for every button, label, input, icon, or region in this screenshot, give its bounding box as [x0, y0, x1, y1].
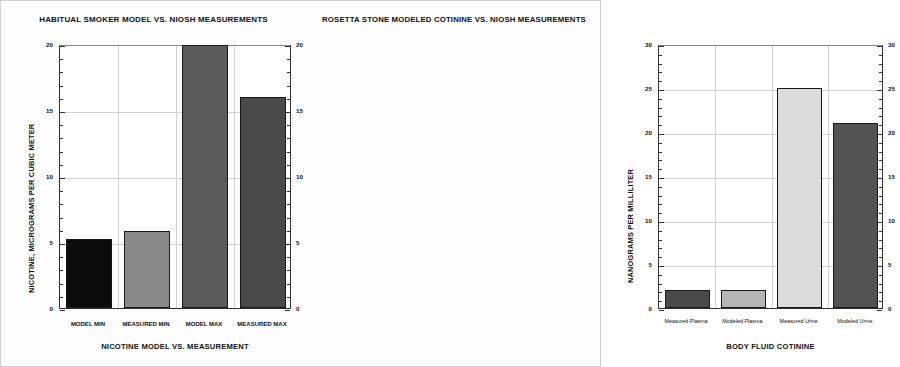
tick-minor-left	[60, 165, 63, 166]
y-tick-label-left: 25	[632, 86, 652, 92]
tick-major-left	[60, 244, 65, 245]
tick-minor-left	[659, 99, 662, 100]
y-tick-label-left: 10	[33, 174, 53, 180]
tick-minor-right	[879, 143, 882, 144]
tick-minor-left	[659, 292, 662, 293]
tick-minor-left	[659, 187, 662, 188]
y-tick-label-right: 20	[888, 130, 900, 136]
tick-minor-right	[879, 169, 882, 170]
y-tick-label-right: 30	[888, 42, 900, 48]
tick-minor-right	[879, 72, 882, 73]
tick-minor-right	[879, 160, 882, 161]
tick-major-right	[877, 90, 882, 91]
tick-minor-left	[659, 152, 662, 153]
tick-minor-left	[659, 257, 662, 258]
y-tick-label-left: 20	[632, 130, 652, 136]
chart-rosetta-stone-cotinine: ROSETTA STONE MODELED COTININE VS. NIOSH…	[306, 1, 602, 367]
tick-minor-left	[659, 55, 662, 56]
tick-minor-left	[659, 160, 662, 161]
plot-area-left	[59, 45, 291, 309]
tick-minor-left	[60, 297, 63, 298]
y-tick-label-right: 15	[888, 174, 900, 180]
tick-minor-right	[879, 204, 882, 205]
tick-minor-right	[879, 292, 882, 293]
tick-minor-left	[60, 59, 63, 60]
tick-minor-right	[287, 152, 290, 153]
bar	[721, 290, 766, 308]
tick-minor-right	[287, 138, 290, 139]
tick-minor-left	[659, 231, 662, 232]
tick-major-left	[60, 178, 65, 179]
tick-minor-left	[659, 108, 662, 109]
tick-minor-left	[60, 152, 63, 153]
tick-minor-right	[879, 99, 882, 100]
tick-minor-right	[879, 152, 882, 153]
tick-minor-right	[287, 165, 290, 166]
tick-major-right	[877, 310, 882, 311]
tick-minor-right	[879, 81, 882, 82]
x-axis-title-right: BODY FLUID COTININE	[658, 342, 883, 351]
tick-minor-right	[287, 86, 290, 87]
tick-minor-right	[879, 55, 882, 56]
y-tick-label-left: 30	[632, 42, 652, 48]
x-category-label: Measured Urine	[771, 319, 827, 324]
gridline-vertical	[176, 46, 177, 308]
gridline-vertical	[715, 46, 716, 308]
tick-minor-left	[60, 86, 63, 87]
tick-major-left	[60, 46, 65, 47]
tick-minor-right	[879, 284, 882, 285]
tick-major-left	[659, 222, 664, 223]
y-tick-label-left: 10	[632, 218, 652, 224]
tick-minor-left	[659, 169, 662, 170]
bar	[665, 290, 710, 308]
y-tick-label-left: 0	[33, 306, 53, 312]
tick-minor-right	[879, 257, 882, 258]
bar	[66, 239, 112, 308]
y-tick-label-left: 15	[632, 174, 652, 180]
x-category-label: Modeled Plasma	[714, 319, 770, 324]
bar	[240, 97, 286, 308]
bar	[124, 231, 170, 308]
tick-minor-left	[60, 231, 63, 232]
gridline-vertical	[828, 46, 829, 308]
tick-minor-right	[287, 257, 290, 258]
tick-minor-right	[879, 64, 882, 65]
tick-minor-left	[659, 213, 662, 214]
tick-minor-left	[659, 204, 662, 205]
tick-minor-left	[659, 72, 662, 73]
y-tick-label-right: 25	[888, 86, 900, 92]
tick-minor-right	[287, 297, 290, 298]
x-category-label: Modeled Urine	[827, 319, 883, 324]
tick-minor-left	[659, 196, 662, 197]
tick-minor-left	[659, 64, 662, 65]
chart-habitual-smoker-nicotine: HABITUAL SMOKER MODEL VS. NIOSH MEASUREM…	[1, 1, 306, 367]
y-tick-label-right: 0	[888, 306, 900, 312]
tick-minor-left	[659, 248, 662, 249]
tick-minor-left	[60, 204, 63, 205]
tick-minor-right	[879, 196, 882, 197]
tick-minor-right	[287, 284, 290, 285]
tick-major-right	[877, 46, 882, 47]
gridline-vertical	[234, 46, 235, 308]
tick-minor-left	[60, 270, 63, 271]
chart-title-right: ROSETTA STONE MODELED COTININE VS. NIOSH…	[306, 15, 602, 24]
tick-minor-left	[659, 143, 662, 144]
x-category-label: MEASURED MAX	[233, 321, 291, 327]
tick-minor-left	[60, 257, 63, 258]
gridline-vertical	[118, 46, 119, 308]
gridline-vertical	[772, 46, 773, 308]
gridline-horizontal	[659, 90, 882, 91]
tick-minor-left	[659, 81, 662, 82]
chart-title-left: HABITUAL SMOKER MODEL VS. NIOSH MEASUREM…	[1, 15, 306, 24]
tick-minor-right	[879, 240, 882, 241]
bar	[833, 123, 878, 308]
y-tick-label-left: 5	[632, 262, 652, 268]
tick-major-left	[60, 112, 65, 113]
tick-minor-left	[659, 301, 662, 302]
tick-minor-left	[60, 99, 63, 100]
y-tick-label-left: 0	[632, 306, 652, 312]
y-tick-label-left: 15	[33, 108, 53, 114]
tick-major-left	[659, 90, 664, 91]
tick-minor-right	[287, 99, 290, 100]
tick-minor-right	[879, 301, 882, 302]
